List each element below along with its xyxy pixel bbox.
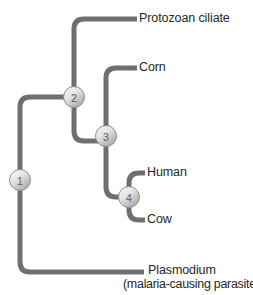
node-markers: 1 2 3 4 [10, 87, 140, 208]
leaf-label-human: Human [147, 165, 187, 179]
leaf-sublabel-plasmodium: (malaria-causing parasite) [123, 277, 253, 291]
node-label-1: 1 [17, 175, 23, 187]
node-label-4: 4 [126, 192, 132, 204]
branch-node2-spine [74, 19, 84, 141]
node-marker-4[interactable]: 4 [119, 187, 140, 208]
node-marker-2[interactable]: 2 [64, 87, 85, 108]
leaf-label-corn: Corn [139, 60, 166, 74]
node-label-2: 2 [71, 92, 77, 104]
node-label-3: 3 [103, 131, 109, 143]
leaf-label-cow: Cow [147, 212, 172, 226]
leaf-label-protozoan-ciliate: Protozoan ciliate [139, 11, 230, 25]
node-marker-3[interactable]: 3 [96, 126, 117, 147]
tree-branch-diagram: 1 2 3 4 [0, 0, 253, 295]
phylogenetic-tree-figure: 1 2 3 4 Protozoan ciliate Corn Human Cow… [0, 0, 253, 295]
node-marker-1[interactable]: 1 [10, 170, 31, 191]
leaf-label-plasmodium: Plasmodium [148, 263, 216, 277]
